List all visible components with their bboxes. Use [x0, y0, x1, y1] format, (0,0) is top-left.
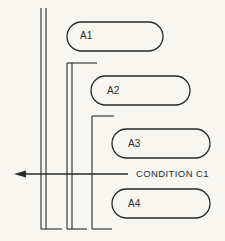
block-a4-label: A4 — [128, 198, 141, 209]
block-a1-label: A1 — [80, 30, 93, 41]
block-a3-shape — [112, 129, 210, 158]
block-a4-shape — [112, 189, 210, 218]
block-a2-label: A2 — [107, 85, 120, 96]
condition-label: CONDITION C1 — [136, 168, 209, 179]
condition-arrow — [14, 171, 128, 178]
outer-bracket — [41, 8, 62, 229]
inner-bracket — [92, 116, 114, 229]
block-a3-label: A3 — [128, 138, 141, 149]
block-a2-shape — [91, 76, 190, 105]
nested-loop-diagram — [0, 0, 225, 241]
